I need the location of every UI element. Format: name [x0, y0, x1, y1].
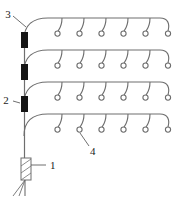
valve-3	[21, 96, 28, 112]
emitter-row-1-5	[143, 31, 148, 36]
dropper-row-2-2	[80, 50, 84, 63]
valve-1	[21, 32, 28, 48]
leader-line-3	[13, 16, 26, 27]
emitter-row-1-6	[165, 31, 170, 36]
intake-line-mid	[19, 180, 25, 196]
dropper-row-1-2	[80, 18, 84, 31]
emitter-row-4-6	[165, 127, 170, 132]
dropper-row-3-3	[102, 82, 106, 95]
dropper-row-2-3	[102, 50, 106, 63]
lateral-row-4	[24, 114, 171, 136]
emitter-row-3-2	[77, 95, 82, 100]
emitter-row-2-1	[55, 63, 60, 68]
label-2: 2	[3, 94, 9, 106]
emitter-row-3-4	[121, 95, 126, 100]
dropper-row-1-4	[124, 18, 128, 31]
dropper-row-1-3	[102, 18, 106, 31]
emitter-row-3-6	[165, 95, 170, 100]
dropper-row-4-3	[102, 114, 106, 127]
intake-line-left	[13, 180, 25, 196]
dropper-row-2-1	[58, 50, 62, 63]
emitter-row-2-4	[121, 63, 126, 68]
dropper-row-4-4	[124, 114, 128, 127]
dropper-row-1-1	[58, 18, 62, 31]
emitter-row-2-5	[143, 63, 148, 68]
irrigation-diagram: 3 2 1 4	[0, 0, 178, 200]
emitter-row-4-5	[143, 127, 148, 132]
emitter-row-4-2	[77, 127, 82, 132]
emitter-row-3-1	[55, 95, 60, 100]
emitter-row-4-1	[55, 127, 60, 132]
emitter-row-1-1	[55, 31, 60, 36]
lateral-row-1-line	[24, 18, 160, 40]
schematic-svg: 3 2 1 4	[0, 0, 178, 200]
lateral-row-3-end-dropper	[160, 82, 169, 95]
label-1: 1	[50, 159, 56, 171]
emitter-row-2-6	[165, 63, 170, 68]
lateral-row-3	[24, 82, 171, 104]
emitter-row-4-4	[121, 127, 126, 132]
dropper-row-4-5	[146, 114, 150, 127]
dropper-row-3-4	[124, 82, 128, 95]
label-4: 4	[90, 145, 96, 157]
leader-line-4	[80, 133, 89, 146]
label-3: 3	[5, 8, 11, 20]
lateral-row-2-line	[24, 50, 160, 72]
emitter-row-1-2	[77, 31, 82, 36]
leader-line-2	[13, 101, 20, 103]
dropper-row-2-4	[124, 50, 128, 63]
dropper-row-4-1	[58, 114, 62, 127]
lateral-row-4-line	[24, 114, 160, 136]
lateral-row-4-end-dropper	[160, 114, 169, 127]
dropper-row-3-1	[58, 82, 62, 95]
lateral-row-2-end-dropper	[160, 50, 169, 63]
lateral-row-1-end-dropper	[160, 18, 169, 31]
lateral-row-1	[24, 18, 171, 40]
emitter-row-1-4	[121, 31, 126, 36]
emitter-row-3-3	[99, 95, 104, 100]
dropper-row-3-2	[80, 82, 84, 95]
valve-2	[21, 64, 28, 80]
dropper-row-4-2	[80, 114, 84, 127]
dropper-row-1-5	[146, 18, 150, 31]
emitter-row-4-3	[99, 127, 104, 132]
emitter-row-3-5	[143, 95, 148, 100]
water-intake-lines	[13, 180, 25, 196]
emitter-row-1-3	[99, 31, 104, 36]
pump-filter	[21, 158, 31, 180]
lateral-row-2	[24, 50, 171, 72]
dropper-row-3-5	[146, 82, 150, 95]
lateral-row-3-line	[24, 82, 160, 104]
dropper-row-2-5	[146, 50, 150, 63]
emitter-row-2-2	[77, 63, 82, 68]
emitter-row-2-3	[99, 63, 104, 68]
